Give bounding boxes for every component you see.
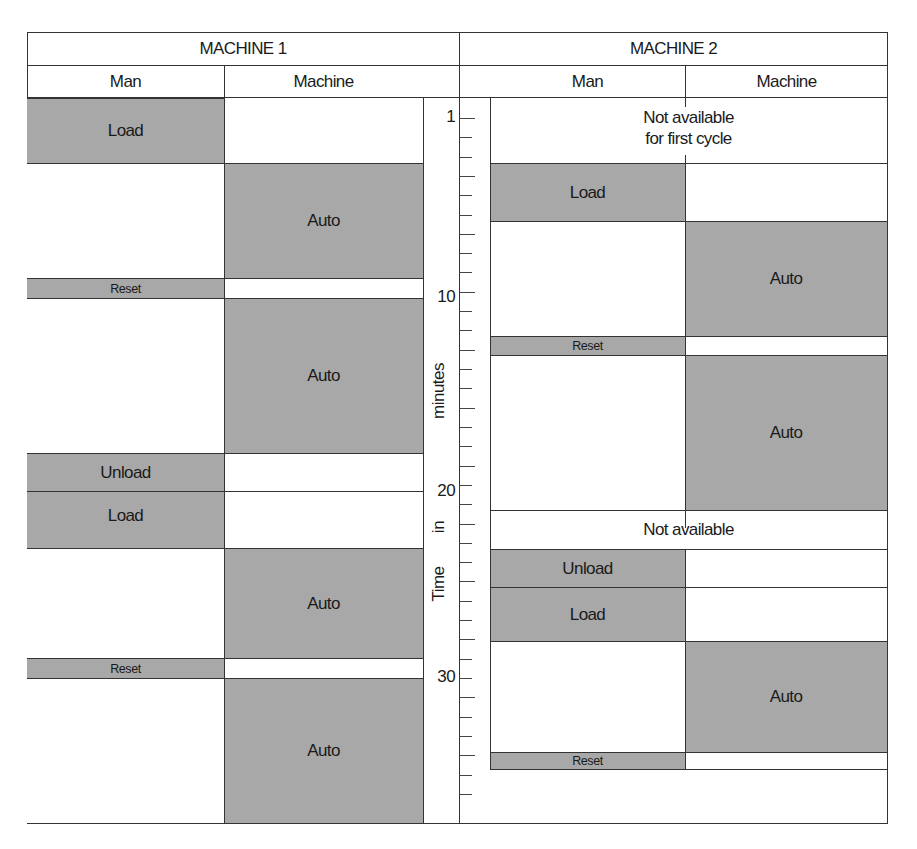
m1-man-idle <box>27 163 224 278</box>
m2-col-divider-stub <box>685 98 686 107</box>
time-axis <box>459 98 491 823</box>
tick-mark <box>459 504 472 505</box>
m1-machine-idle <box>224 658 423 678</box>
m2-header-col-divider <box>685 66 686 98</box>
tick-label-10: 10 <box>429 287 455 307</box>
m2-machine-idle <box>685 587 887 641</box>
tick-mark <box>459 562 472 563</box>
axis-title-minutes: minutes <box>429 361 449 421</box>
m2-man-load: Load <box>490 163 685 221</box>
machine1-machine-header: Machine <box>224 66 423 98</box>
tick-mark <box>459 678 472 679</box>
tick-mark <box>459 466 475 467</box>
tick-mark <box>459 485 472 486</box>
m2-machine-auto: Auto <box>685 641 887 752</box>
m1-machine-auto: Auto <box>224 163 423 278</box>
tick-mark <box>459 253 472 254</box>
m2-man-load: Load <box>490 587 685 641</box>
tick-mark <box>459 543 472 544</box>
tick-mark <box>459 697 475 698</box>
tick-mark <box>459 157 472 158</box>
m1-col-divider <box>224 98 225 823</box>
tick-mark <box>459 717 472 718</box>
m2-machine-idle <box>685 549 887 587</box>
m2-man-idle <box>490 355 685 510</box>
tick-label-1: 1 <box>429 107 455 127</box>
m1-machine-idle <box>224 453 423 491</box>
m1-man-reset: Reset <box>27 278 224 298</box>
tick-mark <box>459 524 475 525</box>
machine2-machine-header: Machine <box>685 66 888 98</box>
tick-mark <box>459 330 472 331</box>
machine1-man-header: Man <box>27 66 224 98</box>
tick-mark <box>459 369 472 370</box>
m1-man-load: Load <box>27 491 224 548</box>
m1-man-idle <box>27 298 224 453</box>
machine2-man-header: Man <box>490 66 685 98</box>
tick-mark <box>459 272 472 273</box>
m1-right-edge <box>423 98 424 823</box>
tick-mark <box>459 775 472 776</box>
m2-not-available: Not available <box>490 510 887 549</box>
tick-mark <box>459 659 472 660</box>
m1-man-load: Load <box>27 98 224 163</box>
m1-man-idle <box>27 678 224 823</box>
tick-mark <box>459 350 475 351</box>
tick-mark <box>459 234 475 235</box>
m2-machine-auto: Auto <box>685 221 887 336</box>
tick-mark <box>459 311 472 312</box>
not-available-line2: for first cycle <box>490 128 887 149</box>
tick-mark <box>459 446 472 447</box>
m2-col-divider <box>685 163 686 510</box>
tick-mark <box>459 388 472 389</box>
m1-machine-auto: Auto <box>224 298 423 453</box>
tick-mark <box>459 601 472 602</box>
m2-man-unload: Unload <box>490 549 685 587</box>
m2-col-divider-stub <box>685 155 686 163</box>
m2-left-edge <box>490 98 491 770</box>
tick-mark <box>459 292 475 293</box>
not-available-line1: Not available <box>490 107 887 128</box>
m2-man-reset: Reset <box>490 336 685 355</box>
m1-man-unload: Unload <box>27 453 224 491</box>
m1-machine-idle <box>224 491 423 548</box>
tick-label-30: 30 <box>429 667 455 687</box>
m1-machine-auto: Auto <box>224 548 423 658</box>
tick-mark <box>459 195 472 196</box>
m2-man-idle <box>490 641 685 752</box>
m1-header-col-divider <box>224 66 225 98</box>
tick-mark <box>459 137 472 138</box>
axis-title-time: Time <box>429 559 449 609</box>
m2-col-divider-stub <box>685 510 686 528</box>
tick-mark <box>459 794 472 795</box>
m2-machine-idle <box>685 752 887 770</box>
tick-mark <box>459 639 475 640</box>
m2-not-available-first-cycle: Not available for first cycle <box>490 107 887 149</box>
axis-title-in: in <box>429 512 449 542</box>
m1-machine-idle <box>224 278 423 298</box>
m2-col-divider <box>685 549 686 770</box>
m2-machine-idle <box>685 163 887 221</box>
m2-machine-auto: Auto <box>685 355 887 510</box>
tick-mark <box>459 427 472 428</box>
tick-label-20: 20 <box>429 481 455 501</box>
machine2-title: MACHINE 2 <box>459 32 888 66</box>
tick-mark <box>459 215 472 216</box>
m1-man-idle <box>27 548 224 658</box>
tick-mark <box>459 736 472 737</box>
tick-mark <box>459 620 472 621</box>
tick-mark <box>459 176 475 177</box>
m1-man-reset: Reset <box>27 658 224 678</box>
tick-mark <box>459 581 475 582</box>
tick-mark <box>459 408 475 409</box>
m2-man-idle <box>490 221 685 336</box>
m2-machine-idle <box>685 336 887 355</box>
tick-mark <box>459 755 475 756</box>
m1-machine-auto: Auto <box>224 678 423 823</box>
machine1-title: MACHINE 1 <box>27 32 459 66</box>
m2-man-reset: Reset <box>490 752 685 770</box>
m1-machine-idle <box>224 98 423 163</box>
tick-mark <box>459 118 475 119</box>
